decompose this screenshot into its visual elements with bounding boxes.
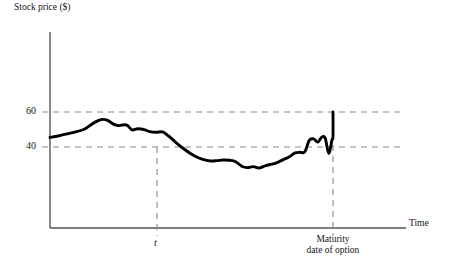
chart-plot-area [0, 0, 451, 276]
y-tick-label-40: 40 [26, 140, 36, 151]
x-tick-label-maturity: Maturity date of option [290, 234, 376, 255]
y-axis-title: Stock price ($) [14, 2, 70, 13]
y-tick-label-60: 60 [26, 105, 36, 116]
maturity-label-line-2: date of option [290, 245, 376, 256]
x-tick-label-t: t [154, 237, 157, 248]
maturity-label-line-1: Maturity [290, 234, 376, 245]
x-axis-title: Time [409, 218, 429, 229]
stock-price-curve [50, 112, 333, 168]
stock-price-chart: Stock price ($) 60 40 t Maturity date of… [0, 0, 451, 276]
